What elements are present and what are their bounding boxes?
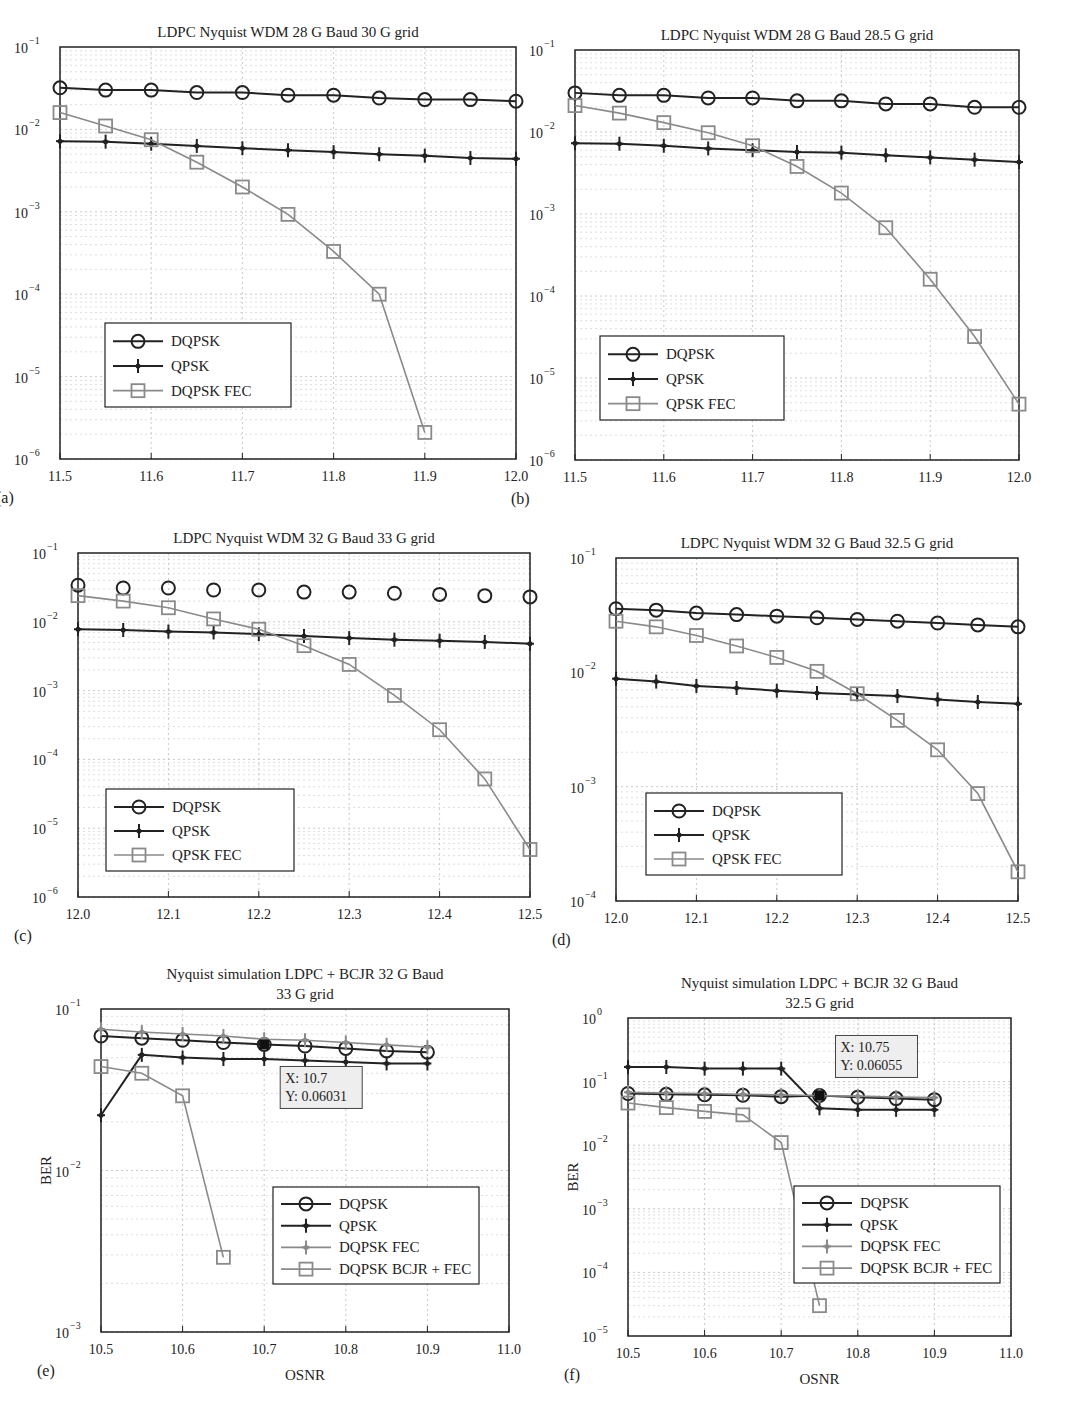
panel-label: (c) bbox=[14, 927, 32, 945]
legend: DQPSKQPSKDQPSK FECDQPSK BCJR + FEC bbox=[273, 1187, 479, 1284]
star-marker-icon bbox=[733, 681, 741, 695]
y-tick-exponent: −2 bbox=[70, 1159, 81, 1170]
y-tick-label: 10 bbox=[14, 288, 28, 303]
legend: DQPSKQPSKQPSK FEC bbox=[600, 336, 784, 420]
y-tick-label: 10 bbox=[582, 1012, 596, 1027]
y-tick-label: 10 bbox=[14, 41, 28, 56]
y-tick-label: 10 bbox=[529, 290, 543, 305]
legend-entry: QPSK bbox=[339, 1218, 378, 1234]
y-tick-label: 10 bbox=[570, 666, 584, 681]
star-marker-icon bbox=[375, 147, 383, 161]
y-tick-exponent: −3 bbox=[597, 1197, 608, 1208]
datatip-marker-icon[interactable] bbox=[815, 1090, 825, 1100]
x-tick-label: 11.6 bbox=[652, 470, 676, 485]
y-tick-label: 10 bbox=[582, 1266, 596, 1281]
star-marker-icon bbox=[481, 635, 489, 649]
legend: DQPSKQPSKDQPSK FEC bbox=[105, 323, 291, 407]
y-tick-label: 10 bbox=[570, 895, 584, 910]
star-marker-icon bbox=[739, 1062, 747, 1076]
legend: DQPSKQPSKDQPSK FECDQPSK BCJR + FEC bbox=[794, 1186, 1000, 1283]
star-marker-icon bbox=[74, 622, 82, 636]
y-tick-exponent: −2 bbox=[29, 117, 40, 128]
y-tick-exponent: −1 bbox=[585, 546, 596, 557]
star-marker-icon bbox=[421, 149, 429, 163]
y-tick-exponent: −3 bbox=[70, 1320, 81, 1331]
datatip-y-value: Y: 0.06031 bbox=[285, 1089, 347, 1104]
y-tick-exponent: −4 bbox=[597, 1260, 608, 1271]
star-marker-icon bbox=[571, 136, 579, 150]
star-marker-icon bbox=[210, 625, 218, 639]
star-marker-icon bbox=[97, 1022, 105, 1036]
y-tick-exponent: −2 bbox=[544, 120, 555, 131]
series-dqpsk bbox=[569, 86, 1026, 113]
legend: DQPSKQPSKQPSK FEC bbox=[106, 789, 294, 871]
y-tick-exponent: −4 bbox=[47, 747, 58, 758]
star-marker-icon bbox=[193, 139, 201, 153]
x-axis-label: OSNR bbox=[285, 1367, 325, 1383]
legend: DQPSKQPSKQPSK FEC bbox=[646, 793, 842, 875]
x-tick-label: 12.1 bbox=[156, 907, 181, 922]
y-tick-exponent: −3 bbox=[544, 202, 555, 213]
x-tick-label: 12.5 bbox=[518, 907, 543, 922]
legend-entry: QPSK bbox=[860, 1217, 899, 1233]
datatip-x-value: X: 10.7 bbox=[285, 1071, 327, 1086]
y-tick-label: 10 bbox=[32, 547, 46, 562]
star-marker-icon bbox=[164, 625, 172, 639]
y-tick-exponent: −1 bbox=[29, 35, 40, 46]
x-tick-label: 10.7 bbox=[769, 1346, 794, 1361]
y-tick-label: 10 bbox=[582, 1076, 596, 1091]
star-marker-icon bbox=[934, 692, 942, 706]
star-marker-icon bbox=[662, 1060, 670, 1074]
x-tick-label: 10.9 bbox=[922, 1346, 947, 1361]
y-tick-exponent: −6 bbox=[29, 447, 40, 458]
series-dqpsk-bcjr-fec bbox=[95, 1060, 230, 1264]
y-tick-exponent: 0 bbox=[597, 1006, 602, 1017]
star-marker-icon bbox=[893, 689, 901, 703]
legend-entry: DQPSK FEC bbox=[860, 1238, 940, 1254]
star-marker-icon bbox=[704, 141, 712, 155]
legend-entry: DQPSK BCJR + FEC bbox=[860, 1260, 992, 1276]
y-tick-label: 10 bbox=[14, 123, 28, 138]
star-marker-icon bbox=[260, 1052, 268, 1066]
chart-title: LDPC Nyquist WDM 32 G Baud 33 G grid bbox=[173, 530, 435, 546]
chart-title: Nyquist simulation LDPC + BCJR 32 G Baud bbox=[681, 975, 959, 991]
y-tick-exponent: −2 bbox=[597, 1133, 608, 1144]
star-marker-icon bbox=[974, 695, 982, 709]
y-axis-label: BER bbox=[565, 1162, 581, 1191]
y-tick-label: 10 bbox=[529, 208, 543, 223]
star-marker-icon bbox=[660, 139, 668, 153]
legend-entry: DQPSK BCJR + FEC bbox=[339, 1261, 471, 1277]
x-tick-label: 10.5 bbox=[616, 1346, 641, 1361]
datatip-y-value: Y: 0.06055 bbox=[841, 1058, 903, 1073]
chart-title: LDPC Nyquist WDM 28 G Baud 30 G grid bbox=[157, 24, 419, 40]
datatip-box[interactable]: X: 10.75Y: 0.06055 bbox=[836, 1035, 918, 1077]
y-tick-exponent: −4 bbox=[544, 284, 555, 295]
y-tick-exponent: −5 bbox=[544, 366, 555, 377]
datatip-marker-icon[interactable] bbox=[259, 1039, 269, 1049]
y-tick-label: 10 bbox=[582, 1203, 596, 1218]
x-tick-label: 10.8 bbox=[334, 1342, 359, 1357]
y-tick-label: 10 bbox=[582, 1139, 596, 1154]
x-tick-label: 11.0 bbox=[999, 1346, 1023, 1361]
x-tick-label: 11.7 bbox=[741, 470, 765, 485]
x-tick-label: 12.3 bbox=[845, 911, 870, 926]
y-axis-label: BER bbox=[38, 1156, 54, 1185]
star-marker-icon bbox=[652, 675, 660, 689]
x-tick-label: 11.8 bbox=[829, 470, 853, 485]
x-tick-label: 12.0 bbox=[66, 907, 91, 922]
legend-entry: QPSK FEC bbox=[666, 396, 736, 412]
star-marker-icon bbox=[383, 1038, 391, 1052]
star-marker-icon bbox=[624, 1060, 632, 1074]
legend-entry: QPSK bbox=[666, 371, 705, 387]
star-marker-icon bbox=[777, 1062, 785, 1076]
y-tick-exponent: −1 bbox=[597, 1070, 608, 1081]
y-tick-label: 10 bbox=[529, 454, 543, 469]
chart-title: LDPC Nyquist WDM 32 G Baud 32.5 G grid bbox=[681, 535, 954, 551]
y-tick-label: 10 bbox=[14, 453, 28, 468]
x-tick-label: 10.5 bbox=[89, 1342, 114, 1357]
y-tick-label: 10 bbox=[570, 552, 584, 567]
series-dqpsk bbox=[72, 579, 537, 604]
star-marker-icon bbox=[179, 1051, 187, 1065]
datatip-box[interactable]: X: 10.7Y: 0.06031 bbox=[280, 1066, 362, 1108]
star-marker-icon bbox=[526, 637, 534, 651]
